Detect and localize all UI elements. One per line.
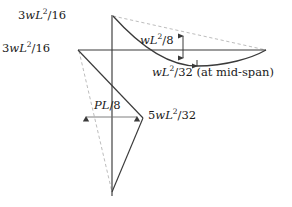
label-top-left-moment: 3wL2/16 (18, 10, 66, 22)
triangle-right-edge (112, 118, 143, 192)
label-wl8-moment: wL2/8 (140, 35, 173, 47)
label-5wl32-moment: 5wL2/32 (148, 110, 196, 122)
dashed-chord-right (113, 16, 266, 50)
bending-moment-diagram: 3wL2/16 3wL2/16 wL2/8 wL2/32 (at mid-spa… (0, 0, 292, 207)
label-wl32-midspan-moment: wL2/32 (at mid-span) (152, 67, 274, 79)
diagram-canvas (0, 0, 292, 207)
label-pl8-moment: PL/8 (94, 100, 121, 112)
dashed-chord-left (79, 51, 112, 192)
label-left-support-moment: 3wL2/16 (2, 43, 50, 55)
parabolic-moment-curve (113, 16, 266, 66)
